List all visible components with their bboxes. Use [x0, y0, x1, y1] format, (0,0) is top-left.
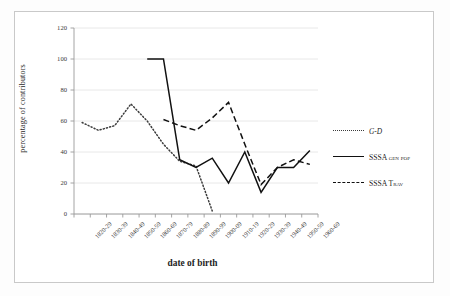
y-tick-label: 100: [41, 55, 67, 62]
y-tick-label: 80: [41, 86, 67, 93]
legend-swatch-dotted-icon: [333, 126, 364, 136]
legend-item-sssa-trav: SSSA Trav: [333, 170, 445, 196]
legend-label-sssa-trav: SSSA Trav: [364, 179, 403, 188]
legend-label-gd: G-D: [364, 127, 382, 136]
legend-item-gd: G-D: [333, 118, 445, 144]
legend-item-sssa-gen-pop: SSSA gen pop: [333, 144, 445, 170]
tick-marks: [71, 28, 319, 218]
gridlines: [74, 28, 318, 214]
legend-swatch-solid-icon: [333, 152, 364, 162]
y-tick-label: 120: [41, 24, 67, 31]
legend-label-sssa-gen-pop: SSSA gen pop: [364, 153, 410, 162]
y-tick-label: 0: [41, 210, 67, 217]
data-series-layer: [82, 59, 310, 211]
y-tick-label: 60: [41, 117, 67, 124]
chart-figure: 020406080100120 1820-291830-391840-49185…: [0, 0, 450, 296]
y-tick-label: 20: [41, 179, 67, 186]
x-axis-title: date of birth: [60, 258, 325, 268]
chart-legend: G-D SSSA gen pop SSSA Trav: [333, 118, 445, 196]
legend-swatch-dashed-icon: [333, 178, 364, 188]
y-axis-title: percentage of contributors: [18, 29, 27, 189]
y-tick-label: 40: [41, 148, 67, 155]
